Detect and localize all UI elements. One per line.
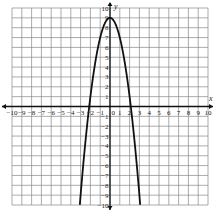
x-tick-label: −7	[38, 109, 46, 117]
x-tick-label: 4	[147, 109, 151, 117]
x-tick-label: 10	[205, 109, 213, 117]
y-axis-label: y	[113, 2, 118, 11]
y-tick-label: −4	[101, 142, 109, 150]
y-tick-label: 5	[105, 54, 109, 62]
x-axis-label: x	[208, 94, 213, 103]
y-tick-label: −10	[98, 202, 109, 210]
y-tick-label: 2	[105, 83, 109, 91]
y-tick-label: 8	[105, 24, 109, 32]
y-tick-label: −1	[101, 113, 109, 121]
y-tick-label: 7	[105, 34, 109, 42]
y-tick-label: −7	[101, 172, 109, 180]
y-tick-label: 10	[102, 5, 110, 13]
y-tick-label: −8	[101, 182, 109, 190]
x-tick-label: 6	[167, 109, 171, 117]
x-tick-label: 1	[118, 109, 122, 117]
y-tick-label: −9	[101, 192, 109, 200]
x-tick-label: −8	[28, 109, 36, 117]
x-tick-label: 5	[157, 109, 161, 117]
x-tick-label: −6	[47, 109, 55, 117]
x-tick-label: 3	[138, 109, 142, 117]
x-tick-label: 7	[177, 109, 181, 117]
y-tick-label: −6	[101, 162, 109, 170]
x-tick-label: −10	[7, 109, 18, 117]
x-tick-label: 9	[196, 109, 200, 117]
y-tick-label: 1	[105, 93, 109, 101]
x-tick-label: −5	[57, 109, 65, 117]
y-tick-label: 3	[105, 73, 109, 81]
y-tick-label: −5	[101, 152, 109, 160]
y-tick-label: −2	[101, 123, 109, 131]
x-tick-label: −4	[67, 109, 75, 117]
y-tick-label: 4	[105, 64, 109, 72]
x-tick-label: −9	[18, 109, 26, 117]
y-tick-label: 6	[105, 44, 109, 52]
y-tick-label: −3	[101, 133, 109, 141]
parabola-graph: −10−9−8−7−6−5−4−3−2−1012345678910−10−9−8…	[0, 0, 217, 211]
x-tick-label: −3	[77, 109, 85, 117]
origin-label: 0	[112, 109, 116, 117]
x-tick-label: 8	[187, 109, 191, 117]
x-axis-left-arrow-icon	[2, 104, 6, 109]
